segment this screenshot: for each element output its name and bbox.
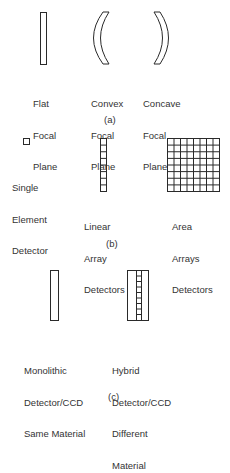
convex-focal-plane-label: Convex Focal Plane — [91, 78, 123, 183]
label-line: Detector/CCD — [24, 398, 85, 409]
label-line: Detector — [12, 246, 48, 257]
label-line: Plane — [91, 162, 123, 173]
hybrid-detector-shape — [128, 271, 149, 321]
label-line: Element — [12, 215, 48, 226]
label-line: Different — [112, 429, 171, 440]
monolithic-label: Monolithic Detector/CCD Same Material — [24, 345, 85, 450]
label-line: Detectors — [172, 285, 213, 296]
label-line: Area — [172, 222, 213, 233]
label-line: Concave — [143, 99, 181, 110]
single-element-label: Single Element Detector — [12, 162, 48, 267]
hybrid-label: Hybrid Detector/CCD Different Material — [112, 345, 171, 473]
caption-b: (b) — [106, 238, 118, 249]
linear-array-label: Linear Array Detectors — [84, 201, 125, 306]
caption-c: (c) — [108, 391, 119, 402]
convex-focal-plane-shape — [94, 12, 110, 64]
label-line: Focal — [33, 131, 57, 142]
label-line: Arrays — [172, 254, 213, 265]
label-line: Focal — [143, 131, 181, 142]
single-element-shape — [24, 139, 30, 145]
concave-focal-plane-label: Concave Focal Plane — [143, 78, 181, 183]
caption-a: (a) — [104, 114, 116, 125]
monolithic-detector-shape — [51, 271, 59, 321]
label-line: Single — [12, 183, 48, 194]
label-line: Same Material — [24, 429, 85, 440]
label-line: Plane — [143, 162, 181, 173]
area-array-label: Area Arrays Detectors — [172, 201, 213, 306]
label-line: Convex — [91, 99, 123, 110]
flat-focal-plane-shape — [41, 13, 47, 65]
label-line: Hybrid — [112, 366, 171, 377]
label-line: Flat — [33, 99, 57, 110]
label-line: Array — [84, 254, 125, 265]
label-line: Linear — [84, 222, 125, 233]
label-line: Monolithic — [24, 366, 85, 377]
label-line: Focal — [91, 131, 123, 142]
concave-focal-plane-shape — [154, 12, 169, 64]
label-line: Material — [112, 461, 171, 472]
label-line: Detector/CCD — [112, 398, 171, 409]
label-line: Detectors — [84, 285, 125, 296]
